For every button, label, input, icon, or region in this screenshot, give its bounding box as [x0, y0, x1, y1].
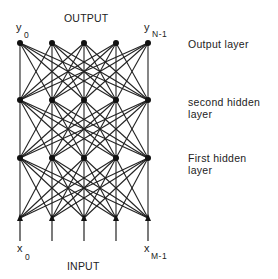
neuron-node: [49, 155, 55, 161]
output-title: OUTPUT: [64, 12, 108, 24]
output-last-sub: N-1: [152, 29, 167, 39]
first-hidden-layer-label-2: layer: [188, 164, 212, 176]
input-title: INPUT: [67, 260, 100, 272]
neuron-node: [49, 97, 55, 103]
neuron-node: [17, 97, 23, 103]
output-first-var: y: [16, 21, 22, 33]
neuron-node: [17, 40, 23, 46]
neuron-node: [145, 97, 151, 103]
neuron-node: [113, 40, 119, 46]
output-layer-label: Output layer: [188, 38, 249, 50]
second-hidden-layer-label-1: second hidden: [188, 96, 260, 108]
neuron-node: [81, 40, 87, 46]
first-hidden-layer-label-1: First hidden: [188, 152, 246, 164]
input-last-var: x: [144, 242, 150, 254]
neuron-node: [81, 97, 87, 103]
input-first-sub: 0: [25, 252, 30, 262]
neuron-node: [49, 40, 55, 46]
neuron-node: [81, 155, 87, 161]
neuron-node: [113, 97, 119, 103]
neuron-node: [145, 155, 151, 161]
neuron-node: [113, 155, 119, 161]
output-first-sub: 0: [24, 30, 29, 40]
connections: [20, 43, 148, 218]
neuron-node: [17, 155, 23, 161]
second-hidden-layer-label-2: layer: [188, 108, 212, 120]
input-first-var: x: [17, 242, 23, 254]
input-last-sub: M-1: [151, 251, 167, 261]
neuron-node: [145, 40, 151, 46]
output-last-var: y: [144, 21, 150, 33]
